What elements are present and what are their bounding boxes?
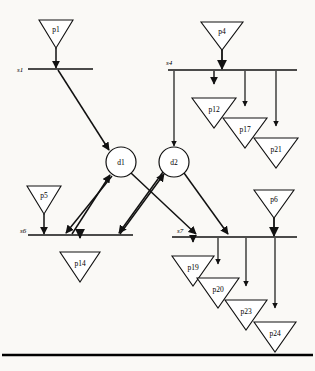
place-p23-label: p23 [240,307,252,316]
place-p4-label: p4 [218,27,226,36]
bar-s1-label: s1 [17,66,23,74]
decision-d1[interactable]: d1 [106,147,136,177]
place-p5-label: p5 [40,191,48,200]
bar-s6-label: s6 [20,227,27,235]
place-p21-label: p21 [270,145,282,154]
petri-net-diagram: s1 s4 s6 s7 [0,0,315,371]
diagram-canvas: s1 s4 s6 s7 [0,0,315,371]
place-p14-label: p14 [74,259,86,268]
place-p1-label: p1 [52,25,60,34]
decision-d2[interactable]: d2 [159,147,189,177]
place-p17-label: p17 [239,125,251,134]
decision-d2-label: d2 [170,158,178,167]
place-p20-label: p20 [212,285,224,294]
place-p6-label: p6 [270,195,278,204]
decision-d1-label: d1 [117,158,125,167]
place-p24-label: p24 [269,329,281,338]
place-p12-label: p12 [208,105,220,114]
bar-s7-label: s7 [177,227,184,235]
place-p19-label: p19 [187,263,199,272]
bar-s4-label: s4 [166,59,173,67]
